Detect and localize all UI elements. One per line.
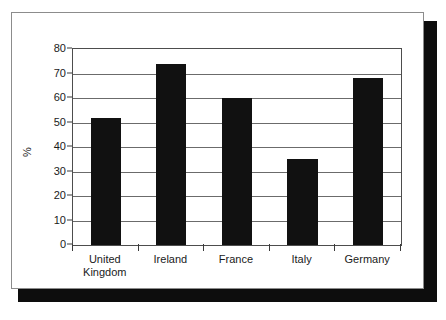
y-axis-tick-labels: 01020304050607080: [40, 48, 66, 244]
y-axis-label: %: [21, 147, 33, 157]
x-axis-category-label-line: Kingdom: [72, 266, 138, 279]
chart-area: % 01020304050607080 UnitedKingdomIreland…: [12, 13, 425, 290]
x-axis-tick-mark: [400, 244, 401, 251]
chart-panel: % 01020304050607080 UnitedKingdomIreland…: [11, 12, 424, 289]
x-axis-category-label-line: France: [203, 253, 269, 266]
x-axis-category-label: UnitedKingdom: [72, 253, 138, 279]
bar-slot: [270, 49, 336, 245]
x-axis-tick-mark: [203, 244, 204, 251]
x-axis-tick-marks: [72, 244, 402, 251]
x-axis-category-label: Italy: [269, 253, 335, 279]
bar-slot: [204, 49, 270, 245]
x-axis-category-label: Germany: [334, 253, 400, 279]
panel-shadow-bottom: [18, 289, 437, 302]
x-axis-tick-mark: [269, 244, 270, 251]
bar-slot: [73, 49, 139, 245]
x-axis-tick-mark: [138, 244, 139, 251]
y-axis-tick-label: 0: [40, 239, 66, 250]
y-axis-tick-label: 60: [40, 92, 66, 103]
y-axis-tick-label: 50: [40, 116, 66, 127]
bars-layer: [73, 49, 401, 245]
figure-root: % 01020304050607080 UnitedKingdomIreland…: [0, 0, 446, 320]
y-axis-tick-label: 30: [40, 165, 66, 176]
bar[interactable]: [353, 78, 383, 245]
x-axis-tick-mark: [72, 244, 73, 251]
x-axis-category-label-line: Italy: [269, 253, 335, 266]
y-axis-tick-label: 70: [40, 67, 66, 78]
bar[interactable]: [91, 118, 121, 245]
x-axis-category-label-line: United: [72, 253, 138, 266]
bar-slot: [335, 49, 401, 245]
bar[interactable]: [287, 159, 317, 245]
x-axis-category-label-line: Ireland: [138, 253, 204, 266]
bar[interactable]: [222, 98, 252, 245]
x-axis-tick-mark: [334, 244, 335, 251]
bar-slot: [139, 49, 205, 245]
x-axis-category-label: France: [203, 253, 269, 279]
x-axis-category-label-line: Germany: [334, 253, 400, 266]
y-axis-tick-label: 20: [40, 190, 66, 201]
y-axis-tick-label: 80: [40, 43, 66, 54]
plot-area: [72, 48, 402, 246]
x-axis-category-label: Ireland: [138, 253, 204, 279]
panel-shadow-right: [424, 21, 437, 302]
bar[interactable]: [156, 64, 186, 245]
y-axis-tick-label: 10: [40, 214, 66, 225]
x-axis-tick-labels: UnitedKingdomIrelandFranceItalyGermany: [72, 253, 400, 279]
y-axis-tick-label: 40: [40, 141, 66, 152]
